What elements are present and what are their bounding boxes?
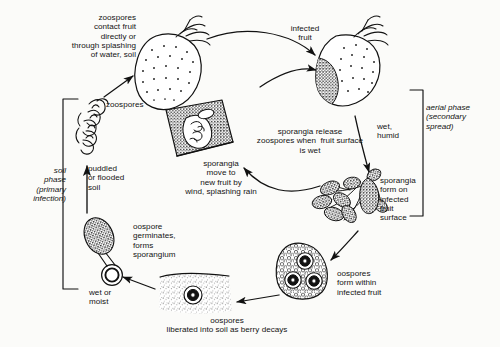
arrow-zoospores-to-fruit <box>104 76 133 97</box>
healthy-fruit-figure <box>135 16 210 110</box>
label-sporangia-form: sporangia form on infected fruit surface <box>380 176 416 222</box>
label-puddled-soil: puddled or flooded soil <box>88 164 124 192</box>
arrow-sporangia-to-oospores <box>331 231 358 260</box>
disease-cycle-diagram: zoospores contact fruit directly or thro… <box>0 0 500 347</box>
sporangia-cluster-figure <box>311 167 390 226</box>
label-oospores-liberated: oospores liberated into soil as berry de… <box>126 316 328 335</box>
label-oospore-germinates: oospore germinates, forms sporangium <box>133 222 176 259</box>
oospore-fruit-figure <box>276 243 327 299</box>
label-sporangia-release: sporangia release zoospores when fruit s… <box>239 127 381 155</box>
germinating-oospore-figure <box>78 213 122 285</box>
label-soil-phase: soil phase (primary infection) <box>8 166 66 204</box>
zoospore-cluster-figure <box>76 99 108 154</box>
soil-block-figure <box>159 273 232 313</box>
label-oospores-form: oospores form within infected fruit <box>337 269 381 297</box>
label-aerial-phase: aerial phase (secondary spread) <box>426 103 492 131</box>
label-zoospores-contact: zoospores contact fruit directly or thro… <box>20 13 136 59</box>
arrow-curve-lower <box>260 69 316 87</box>
label-zoospores: zoospores <box>106 100 144 109</box>
label-wet-or-moist: wet or moist <box>89 288 111 307</box>
sporangium-detail-figure <box>166 100 233 156</box>
label-infected-fruit: infected fruit <box>278 24 332 43</box>
label-sporangia-move: sporangia move to new fruit by wind, spl… <box>158 159 284 196</box>
arrow-oospores-to-soil <box>237 295 279 302</box>
oospore-ring <box>102 265 123 286</box>
arrow-soil-to-germination <box>123 277 155 289</box>
soil-oospore <box>184 286 202 304</box>
